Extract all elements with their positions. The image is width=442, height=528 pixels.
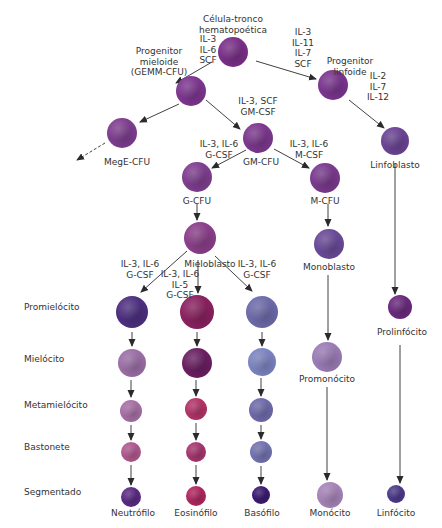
label-gm: GM-CFU (243, 157, 279, 168)
label-monoblast: Monoblasto (303, 262, 355, 273)
label-cmp: Progenitor mieloide (GEMM-CFU) (131, 46, 188, 78)
cytokines-to-gm: IL-3, SCF GM-CSF (238, 96, 277, 117)
stage-label: Metamielócito (24, 400, 88, 410)
cell-b3 (249, 398, 273, 422)
cytokines-to-neutro: IL-3, IL-6 G-CSF (121, 259, 160, 280)
cell-b4 (250, 441, 272, 463)
cell-n3 (120, 400, 142, 422)
cytokines-to-clp: IL-3 IL-11 IL-7 SCF (292, 27, 314, 69)
label-lymphoblast: Linfoblasto (370, 160, 419, 171)
cell-lymphocyte (387, 485, 405, 503)
cell-neutrophil (121, 487, 141, 507)
cell-e3 (185, 398, 207, 420)
cell-eosinophil (186, 486, 206, 506)
arrow-4 (349, 100, 384, 128)
stage-label: Mielócito (24, 354, 64, 364)
label-mcfu: M-CFU (310, 196, 339, 207)
label-prolymph: Prolinfócito (377, 327, 427, 338)
label-lymphocyte: Linfócito (377, 508, 415, 519)
cell-myeloblast (184, 222, 216, 254)
cell-mcfu (310, 163, 340, 193)
label-hsc: Célula-tronco hematopoética (199, 14, 267, 35)
cell-b1 (246, 296, 278, 328)
cell-gm (243, 123, 273, 153)
cell-hsc (218, 37, 248, 67)
stage-label: Bastonete (24, 442, 70, 452)
cell-basophil (252, 486, 270, 504)
cell-b2 (248, 348, 276, 376)
cytokines-to-baso: IL-3, IL-6 G-CSF (238, 259, 277, 280)
cytokines-to-gcfu: IL-3, IL-6 G-CSF (200, 139, 239, 160)
cell-monoblast (314, 229, 344, 259)
arrow-5 (77, 143, 105, 160)
cell-n1 (116, 296, 148, 328)
cell-promono (312, 342, 342, 372)
label-basophil: Basófilo (244, 508, 280, 519)
label-monocyte: Monócito (310, 508, 351, 519)
label-promono: Promonócito (299, 374, 355, 385)
hematopoiesis-diagram: Célula-tronco hematopoéticaProgenitor mi… (0, 0, 442, 528)
label-neutrophil: Neutrófilo (111, 508, 155, 519)
cell-cmp (176, 76, 206, 106)
cell-e4 (186, 442, 206, 462)
label-mege: MegE-CFU (104, 157, 150, 168)
cytokines-to-mcfu: IL-3, IL-6 M-CSF (290, 139, 329, 160)
cytokines-to-cmp: IL-3 IL-6 SCF (199, 34, 216, 66)
stage-label: Promielócito (24, 302, 80, 312)
label-eosinophil: Eosinófilo (174, 508, 217, 519)
label-myeloblast: Mieloblasto (184, 259, 235, 270)
cell-monocyte (317, 482, 343, 508)
cell-gcfu (182, 162, 212, 192)
label-gcfu: G-CFU (183, 196, 211, 207)
cytokines-to-eos: IL-3, IL-6 IL-5 G-CSF (161, 269, 200, 301)
arrow-3 (206, 100, 240, 129)
cell-n4 (121, 442, 141, 462)
stage-label: Segmentado (24, 487, 81, 497)
cell-lymphoblast (381, 127, 409, 155)
cell-e2 (182, 348, 212, 378)
cell-prolymph (388, 295, 412, 319)
cell-n2 (118, 349, 146, 377)
cytokines-to-lymphoblast: IL-2 IL-7 IL-12 (367, 71, 389, 103)
cell-mege (107, 118, 137, 148)
arrow-2 (140, 104, 179, 122)
